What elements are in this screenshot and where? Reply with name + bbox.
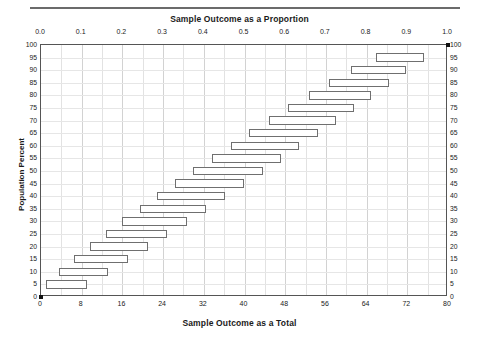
top-x-tick-label: 0.9 — [401, 28, 411, 35]
top-x-tick-label: 0.5 — [239, 28, 249, 35]
y-tick-label-right: 100 — [450, 41, 461, 48]
y-tick-label-left: 5 — [14, 280, 37, 287]
y-tick-label-right: 5 — [450, 280, 454, 287]
confidence-interval-bar — [212, 154, 281, 163]
confidence-interval-bar — [106, 230, 167, 239]
horizontal-gridline — [41, 221, 446, 222]
y-tick-label-left: 10 — [14, 267, 37, 274]
horizontal-gridline — [41, 133, 446, 134]
y-tick-label-right: 30 — [450, 217, 458, 224]
bottom-x-tick-label: 0 — [38, 300, 42, 307]
y-tick-label-left: 25 — [14, 230, 37, 237]
horizontal-gridline — [41, 284, 446, 285]
bottom-x-tick-label: 16 — [117, 300, 125, 307]
y-tick-label-left: 95 — [14, 53, 37, 60]
bottom-x-tick-label: 64 — [362, 300, 370, 307]
confidence-interval-bar — [175, 179, 243, 188]
y-tick-label-right: 95 — [450, 53, 458, 60]
confidence-interval-bar — [351, 66, 406, 75]
y-tick-label-right: 15 — [450, 255, 458, 262]
chart-top-title: Sample Outcome as a Proportion — [0, 14, 479, 24]
horizontal-gridline — [41, 196, 446, 197]
chart-bottom-title: Sample Outcome as a Total — [0, 318, 479, 328]
y-tick-label-right: 85 — [450, 78, 458, 85]
y-tick-label-right: 10 — [450, 267, 458, 274]
confidence-interval-bar — [329, 79, 389, 88]
confidence-interval-bar — [193, 167, 263, 176]
y-tick-label-left: 70 — [14, 116, 37, 123]
horizontal-gridline — [41, 95, 446, 96]
bottom-x-tick-label: 32 — [199, 300, 207, 307]
horizontal-gridline — [41, 234, 446, 235]
y-tick-label-left: 0 — [14, 293, 37, 300]
y-tick-label-left: 30 — [14, 217, 37, 224]
top-x-tick-label: 1.0 — [442, 28, 452, 35]
y-tick-label-left: 85 — [14, 78, 37, 85]
top-x-axis-ticks: 0.00.10.20.30.40.50.60.70.80.91.0 — [0, 28, 479, 40]
top-x-tick-label: 0.4 — [198, 28, 208, 35]
horizontal-gridline — [41, 121, 446, 122]
y-tick-label-right: 90 — [450, 66, 458, 73]
confidence-interval-bar — [309, 91, 372, 100]
y-tick-label-right: 40 — [450, 192, 458, 199]
bottom-x-tick-label: 80 — [443, 300, 451, 307]
confidence-interval-bar — [74, 255, 129, 264]
top-x-tick-label: 0.2 — [117, 28, 127, 35]
confidence-interval-bar — [140, 205, 206, 214]
y-tick-label-right: 0 — [450, 293, 454, 300]
confidence-interval-bar — [288, 104, 353, 113]
y-tick-label-right: 50 — [450, 167, 458, 174]
y-tick-label-right: 80 — [450, 91, 458, 98]
y-tick-label-right: 55 — [450, 154, 458, 161]
y-axis-title: Population Percent — [17, 135, 26, 215]
y-tick-label-right: 45 — [450, 179, 458, 186]
top-x-tick-label: 0.6 — [279, 28, 289, 35]
confidence-interval-bar — [157, 192, 225, 201]
confidence-interval-bar — [249, 129, 317, 138]
plot-area — [40, 44, 447, 296]
bottom-x-tick-label: 24 — [158, 300, 166, 307]
y-tick-label-left: 90 — [14, 66, 37, 73]
y-axis-labels-right: 0510152025303540455055606570758085909510… — [450, 44, 476, 296]
y-tick-label-left: 100 — [14, 41, 37, 48]
y-tick-label-right: 60 — [450, 141, 458, 148]
top-x-tick-label: 0.7 — [320, 28, 330, 35]
corner-marker — [39, 295, 43, 299]
bottom-x-tick-label: 8 — [79, 300, 83, 307]
top-x-tick-label: 0.0 — [35, 28, 45, 35]
bottom-x-tick-label: 56 — [321, 300, 329, 307]
bottom-x-axis-ticks: 08162432404856647280 — [0, 300, 479, 312]
confidence-interval-bar — [376, 53, 424, 62]
bottom-x-tick-label: 72 — [402, 300, 410, 307]
y-tick-label-left: 75 — [14, 104, 37, 111]
top-x-tick-label: 0.1 — [76, 28, 86, 35]
horizontal-gridline — [41, 209, 446, 210]
confidence-interval-bar — [269, 116, 336, 125]
y-tick-label-left: 15 — [14, 255, 37, 262]
horizontal-gridline — [41, 108, 446, 109]
y-tick-label-right: 35 — [450, 204, 458, 211]
confidence-interval-bar — [59, 268, 108, 277]
confidence-interval-bar — [231, 142, 300, 151]
y-tick-label-right: 20 — [450, 242, 458, 249]
y-tick-label-right: 70 — [450, 116, 458, 123]
y-tick-label-right: 65 — [450, 129, 458, 136]
bottom-x-tick-label: 40 — [240, 300, 248, 307]
confidence-interval-bar — [46, 280, 87, 289]
top-x-tick-label: 0.8 — [361, 28, 371, 35]
y-tick-label-right: 25 — [450, 230, 458, 237]
y-tick-label-left: 80 — [14, 91, 37, 98]
top-x-tick-label: 0.3 — [157, 28, 167, 35]
confidence-interval-bar — [122, 217, 186, 226]
y-tick-label-right: 75 — [450, 104, 458, 111]
top-divider-rule — [30, 7, 460, 9]
y-tick-label-left: 20 — [14, 242, 37, 249]
confidence-interval-bar — [90, 242, 148, 251]
bottom-x-tick-label: 48 — [280, 300, 288, 307]
